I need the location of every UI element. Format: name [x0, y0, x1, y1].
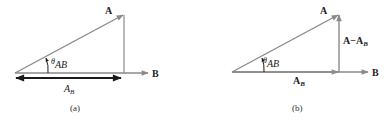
vector-a-arrow [232, 15, 338, 72]
projection-label: AB [63, 83, 75, 96]
projection-label: AB [293, 75, 305, 88]
caption-a: (a) [70, 103, 80, 113]
perpendicular-label: A−AB [343, 35, 368, 48]
caption-b: (b) [292, 103, 303, 113]
panel-b: A B A−AB θAB AB (b) [232, 5, 379, 113]
vector-a-label: A [105, 5, 113, 16]
vector-b-label: B [372, 67, 379, 78]
vector-a-arrow [15, 15, 123, 73]
angle-label: θAB [51, 57, 67, 70]
angle-arc-icon [46, 58, 48, 73]
vector-a-label: A [320, 5, 328, 16]
vector-b-label: B [152, 68, 159, 79]
angle-label: θAB [263, 56, 279, 69]
vector-projection-diagram: A B θAB AB (a) A B A−AB θAB AB (b) [0, 0, 390, 121]
panel-a: A B θAB AB (a) [15, 5, 159, 113]
